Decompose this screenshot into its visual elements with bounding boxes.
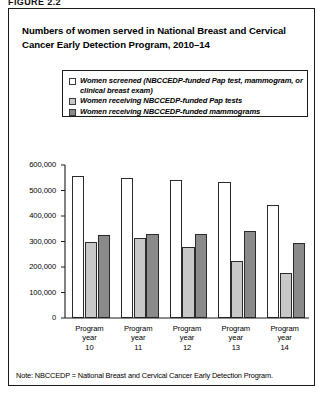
x-category-label-2: Programyear11 xyxy=(115,324,161,352)
x-category-label-5: Programyear14 xyxy=(262,324,308,352)
x-category-label-1: Programyear10 xyxy=(66,324,112,352)
chart-note: Note: NBCCEDP = National Breast and Cerv… xyxy=(16,371,308,380)
x-category-label-3: Programyear12 xyxy=(164,324,210,352)
x-category-label-4: Programyear13 xyxy=(213,324,259,352)
x-axis-labels: Programyear10Programyear11Programyear12P… xyxy=(0,0,325,395)
